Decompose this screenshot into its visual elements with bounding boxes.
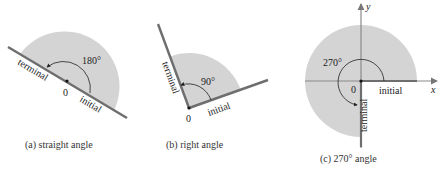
caption: (b) right angle xyxy=(166,139,224,151)
origin-label: 0 xyxy=(186,113,191,124)
terminal-label: terminal xyxy=(358,98,369,132)
caption: (c) 270° angle xyxy=(320,153,377,165)
origin-label: 0 xyxy=(63,87,68,98)
angle-label: 90° xyxy=(201,76,215,87)
panel-straight-angle: 180° 0 terminal initial (a) straight ang… xyxy=(8,31,127,151)
initial-label: initial xyxy=(206,100,232,118)
origin-point xyxy=(187,106,190,109)
initial-label: initial xyxy=(379,85,403,96)
angle-figure: 180° 0 terminal initial (a) straight ang… xyxy=(0,0,445,175)
panel-right-angle: 90° 0 terminal initial (b) right angle xyxy=(158,24,268,151)
origin-point xyxy=(359,79,362,82)
origin-point xyxy=(65,79,68,82)
panel-270-angle: 270° 0 initial terminal x y (c) 270° ang… xyxy=(305,1,437,165)
angle-label: 180° xyxy=(82,55,101,66)
caption: (a) straight angle xyxy=(25,139,93,151)
x-axis-label: x xyxy=(430,84,436,95)
origin-label: 0 xyxy=(351,84,356,95)
y-axis-label: y xyxy=(365,1,371,12)
angle-label: 270° xyxy=(323,57,342,68)
